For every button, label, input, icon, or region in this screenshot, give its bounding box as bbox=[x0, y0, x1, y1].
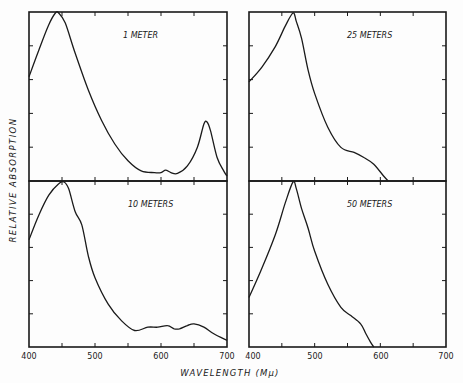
xtick-left-400: 400 bbox=[21, 352, 36, 361]
axis-ticks bbox=[29, 12, 446, 347]
x-axis-title: WAVELENGTH (Mμ) bbox=[180, 368, 279, 378]
chart-canvas: 1 METER 25 METERS 10 METERS 50 METERS 40… bbox=[0, 0, 463, 383]
xtick-right-700: 700 bbox=[438, 352, 453, 361]
panel-label-10m: 10 METERS bbox=[128, 200, 173, 209]
panel-label-1m: 1 METER bbox=[123, 31, 158, 40]
panel-label-50m: 50 METERS bbox=[347, 200, 392, 209]
xtick-left-700: 700 bbox=[219, 352, 234, 361]
absorption-curves bbox=[29, 12, 388, 347]
y-axis-title: RELATIVE ABSORPTION bbox=[8, 118, 18, 243]
absorption-figure: 1 METER 25 METERS 10 METERS 50 METERS 40… bbox=[0, 0, 463, 383]
xtick-right-500: 500 bbox=[307, 352, 322, 361]
xtick-left-500: 500 bbox=[87, 352, 102, 361]
panel-label-25m: 25 METERS bbox=[347, 31, 392, 40]
xtick-left-600: 600 bbox=[153, 352, 168, 361]
xtick-right-400: 400 bbox=[245, 352, 260, 361]
xtick-right-600: 600 bbox=[373, 352, 388, 361]
